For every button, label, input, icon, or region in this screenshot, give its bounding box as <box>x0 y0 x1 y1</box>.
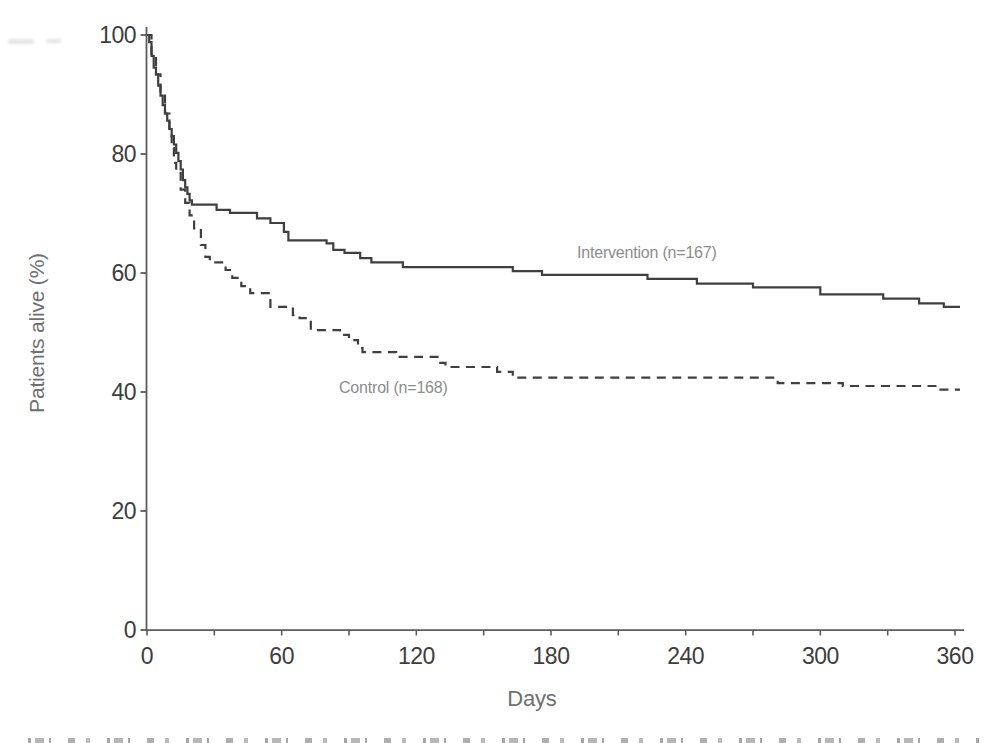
km-survival-figure: Patients alive (%) Days 020406080100 060… <box>0 0 999 743</box>
x-tick-label: 180 <box>511 643 591 669</box>
scan-artifact <box>8 39 34 44</box>
control-curve <box>147 35 960 390</box>
y-tick-label: 60 <box>50 260 136 286</box>
control-series-label: Control (n=168) <box>339 379 448 397</box>
x-tick-label: 300 <box>780 643 860 669</box>
scan-artifact <box>46 39 61 43</box>
km-plot-canvas <box>0 0 999 743</box>
intervention-curve <box>147 35 960 307</box>
x-axis-title: Days <box>492 686 572 712</box>
x-tick-label: 0 <box>107 643 187 669</box>
x-tick-label: 120 <box>376 643 456 669</box>
x-tick-label: 360 <box>915 643 995 669</box>
y-tick-label: 80 <box>50 141 136 167</box>
y-axis-title: Patients alive (%) <box>25 253 49 413</box>
y-tick-label: 0 <box>50 617 136 643</box>
intervention-series-label: Intervention (n=167) <box>577 244 717 262</box>
x-tick-label: 60 <box>242 643 322 669</box>
y-tick-label: 100 <box>50 22 136 48</box>
y-tick-label: 40 <box>50 379 136 405</box>
cropped-caption-fragment <box>28 738 982 743</box>
x-tick-label: 240 <box>646 643 726 669</box>
y-tick-label: 20 <box>50 498 136 524</box>
